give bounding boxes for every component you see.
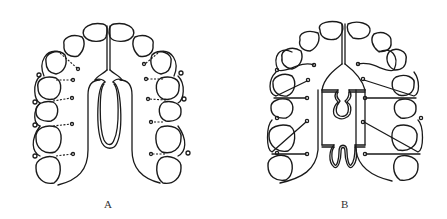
appliance-a-drawing (0, 0, 224, 219)
figure-a: A (0, 0, 224, 219)
teeth-left (36, 24, 107, 184)
u-loop-spring-a (95, 79, 122, 148)
figure-label-a: A (104, 198, 112, 210)
appliance-b-drawing (224, 0, 447, 219)
double-loop-spring-b (330, 145, 357, 168)
omega-loop-spring-b (334, 90, 352, 119)
figure-label-b: B (341, 198, 348, 210)
figure-b: B (224, 0, 447, 219)
